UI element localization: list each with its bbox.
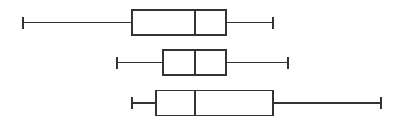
box-plot-chart [0, 0, 399, 121]
iqr-box [156, 91, 273, 116]
box-plot-2 [117, 50, 288, 75]
box-plot-1 [23, 10, 273, 35]
iqr-box [132, 10, 226, 35]
plot-area [0, 0, 399, 121]
box-plot-3 [132, 91, 381, 116]
